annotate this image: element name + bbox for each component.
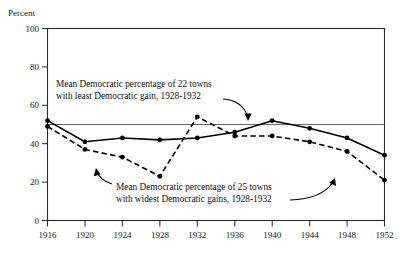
annotation-widest-gains-line1: Mean Democratic percentage of 25 towns [116,182,272,192]
y-axis-title: Percent [8,8,35,18]
x-tick-label-1944: 1944 [301,230,320,240]
data-point [270,118,275,123]
data-point [157,174,162,179]
data-point [307,126,312,131]
data-point [83,147,88,152]
annotation-least-gain-line2: with least Democratic gain, 1928-1932 [56,91,201,101]
data-point [345,149,350,154]
annotation-widest-gains-line2: with widest Democratic gains, 1928-1932 [116,194,272,204]
y-tick-label-20: 20 [30,177,40,187]
data-point [195,114,200,119]
x-tick-label-1952: 1952 [376,230,394,240]
y-tick-label-100: 100 [26,24,40,34]
y-tick-label-0: 0 [35,216,40,226]
chart-page: Percent 0 20 40 60 80 100 [0,0,408,255]
data-point [120,155,125,160]
data-point [232,134,237,139]
y-tick-label-60: 60 [30,100,40,110]
x-tick-label-1924: 1924 [113,230,132,240]
x-tick-label-1916: 1916 [39,230,58,240]
y-tick-label-80: 80 [30,62,40,72]
data-point [345,136,350,141]
x-tick-label-1940: 1940 [263,230,282,240]
x-tick-label-1948: 1948 [338,230,357,240]
annotation-least-gain-line1: Mean Democratic percentage of 22 towns [56,79,212,89]
x-tick-label-1932: 1932 [188,230,206,240]
x-tick-label-1936: 1936 [226,230,245,240]
data-point [382,153,387,158]
data-point [45,124,50,129]
data-point [270,134,275,139]
x-tick-label-1928: 1928 [151,230,170,240]
data-point [45,118,50,123]
data-point [307,139,312,144]
data-point [382,178,387,183]
line-chart: Percent 0 20 40 60 80 100 [0,0,408,255]
data-point [157,137,162,142]
x-tick-label-1920: 1920 [76,230,95,240]
data-point [83,139,88,144]
y-tick-label-40: 40 [30,139,40,149]
data-point [120,136,125,141]
data-point [195,136,200,141]
